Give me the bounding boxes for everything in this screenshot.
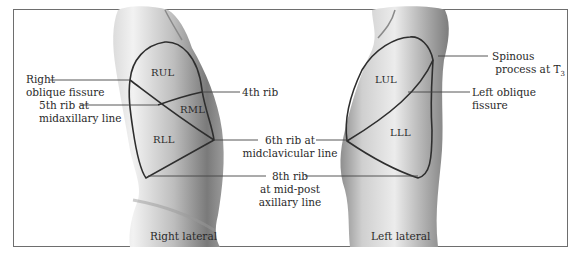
label-left-oblique-fissure: Left oblique fissure bbox=[472, 86, 536, 112]
lobe-lll: LLL bbox=[390, 127, 411, 138]
anatomy-illustration bbox=[0, 0, 576, 258]
lobe-rll: RLL bbox=[153, 134, 175, 145]
lobe-rul: RUL bbox=[151, 67, 175, 78]
label-right-oblique-fissure: Right oblique fissure bbox=[26, 73, 105, 99]
lobe-rml: RML bbox=[180, 104, 205, 115]
caption-left-lateral: Left lateral bbox=[371, 230, 430, 242]
label-spinous-process: Spinous process at T3 bbox=[492, 50, 565, 81]
label-eighth-rib: 8th rib at mid-post axillary line bbox=[240, 170, 340, 209]
label-sixth-rib: 6th rib at midclavicular line bbox=[240, 134, 340, 160]
label-fourth-rib: 4th rib bbox=[242, 86, 278, 99]
lobe-lul: LUL bbox=[375, 74, 397, 85]
caption-right-lateral: Right lateral bbox=[150, 230, 217, 242]
label-fifth-rib: 5th rib at midaxillary line bbox=[39, 99, 122, 125]
